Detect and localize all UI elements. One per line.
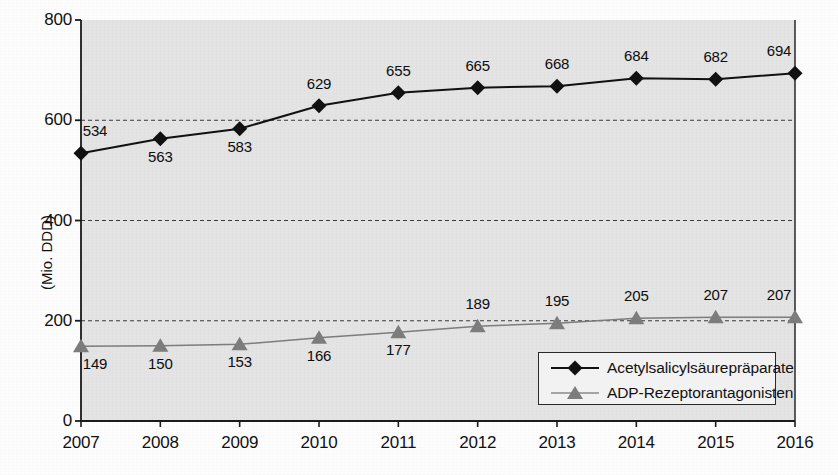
legend-label-1: ADP-Rezeptorantagonisten bbox=[603, 384, 793, 402]
data-label-s0-2015: 682 bbox=[703, 48, 727, 65]
x-axis-tick-2014: 2014 bbox=[618, 433, 655, 453]
legend-item-acetylsalicylsaeurepraeparate: Acetylsalicylsäurepräparate bbox=[539, 355, 775, 380]
data-label-s0-2010: 629 bbox=[307, 75, 331, 92]
data-label-s1-2015: 207 bbox=[703, 286, 727, 303]
data-label-s1-2014: 205 bbox=[624, 287, 648, 304]
data-label-s1-2016: 207 bbox=[767, 286, 791, 303]
x-axis-tick-2011: 2011 bbox=[380, 433, 416, 453]
x-axis-tick-2016: 2016 bbox=[776, 433, 813, 453]
data-label-s0-2009: 583 bbox=[227, 138, 251, 155]
data-label-s1-2007: 149 bbox=[83, 355, 107, 372]
data-label-s0-2007: 534 bbox=[83, 122, 107, 139]
x-axis-tick-2008: 2008 bbox=[142, 433, 179, 453]
data-label-s1-2010: 166 bbox=[307, 347, 331, 364]
line-chart: (Mio. DDD) 0200400600800 200720082009201… bbox=[0, 0, 838, 475]
data-label-s0-2014: 684 bbox=[624, 47, 648, 64]
data-label-s1-2013: 195 bbox=[545, 292, 569, 309]
chart-legend: Acetylsalicylsäurepräparate ADP-Rezeptor… bbox=[538, 352, 776, 405]
data-label-s1-2012: 189 bbox=[465, 295, 489, 312]
data-label-s0-2011: 655 bbox=[386, 62, 410, 79]
legend-label-0: Acetylsalicylsäurepräparate bbox=[603, 359, 794, 377]
y-axis-tick-600: 600 bbox=[20, 110, 72, 130]
y-axis-tick-0: 0 bbox=[20, 411, 72, 431]
data-label-s1-2011: 177 bbox=[386, 341, 410, 358]
y-axis-tick-800: 800 bbox=[20, 10, 72, 30]
diamond-marker-icon bbox=[547, 357, 603, 379]
legend-item-adp-rezeptorantagonisten: ADP-Rezeptorantagonisten bbox=[539, 380, 775, 405]
y-axis-tick-400: 400 bbox=[20, 211, 72, 231]
x-axis-tick-2010: 2010 bbox=[300, 433, 337, 453]
x-axis-tick-2009: 2009 bbox=[221, 433, 258, 453]
data-label-s1-2008: 150 bbox=[148, 355, 172, 372]
x-axis-tick-2007: 2007 bbox=[62, 433, 99, 453]
data-label-s0-2016: 694 bbox=[767, 42, 791, 59]
data-label-s0-2012: 665 bbox=[465, 57, 489, 74]
x-axis-tick-2015: 2015 bbox=[697, 433, 734, 453]
x-axis-tick-2012: 2012 bbox=[459, 433, 496, 453]
data-label-s1-2009: 153 bbox=[227, 353, 251, 370]
y-axis-tick-200: 200 bbox=[20, 311, 72, 331]
triangle-marker-icon bbox=[547, 382, 603, 404]
data-label-s0-2013: 668 bbox=[545, 55, 569, 72]
data-label-s0-2008: 563 bbox=[148, 148, 172, 165]
x-axis-tick-2013: 2013 bbox=[538, 433, 575, 453]
